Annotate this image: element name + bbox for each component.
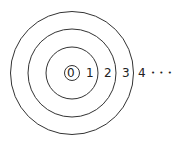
label-2: 2 [104, 67, 112, 79]
label-0: 0 [67, 67, 75, 79]
label-3: 3 [122, 67, 130, 79]
label-4: 4 [138, 67, 146, 79]
ellipsis: • • • [151, 67, 173, 79]
label-1: 1 [86, 67, 94, 79]
